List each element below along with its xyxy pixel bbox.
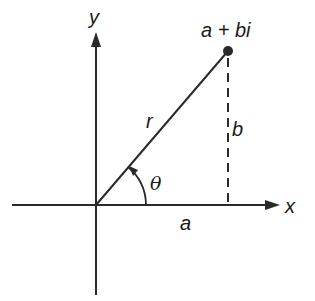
x-axis-arrowhead [265,200,280,210]
imaginary-part-label: b [232,118,243,140]
complex-plane-diagram: y x a + bi r b a θ [0,0,315,301]
angle-label: θ [150,172,162,194]
x-axis-label: x [284,195,296,217]
real-part-label: a [180,212,191,234]
point-label: a + bi [201,19,251,41]
y-axis-arrowhead [91,32,101,47]
angle-arc-arrowhead [129,166,138,176]
diagram-svg: y x a + bi r b a θ [0,0,315,301]
y-axis-label: y [87,6,100,28]
angle-arc [128,167,146,205]
radius-line [96,51,228,205]
complex-point [223,46,233,56]
radius-label: r [146,110,154,132]
